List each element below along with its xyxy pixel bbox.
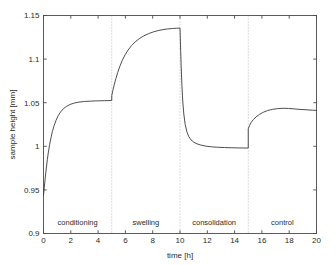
x-tick-label: 18 (285, 236, 294, 245)
y-tick-label: 0.95 (24, 186, 40, 195)
x-tick-label: 4 (96, 236, 101, 245)
phase-label-control: control (271, 218, 294, 227)
y-axis-title: sample height [mm] (8, 90, 17, 160)
x-tick-label: 20 (312, 236, 321, 245)
x-tick-label: 6 (123, 236, 128, 245)
phase-label-conditioning: conditioning (58, 218, 98, 227)
phase-label-swelling: swelling (133, 218, 160, 227)
chart-figure: 02468101214161820 0.90.9511.051.11.15 co… (0, 0, 336, 265)
x-tick-label: 16 (257, 236, 266, 245)
phase-label-consolidation: consolidation (192, 218, 236, 227)
y-tick-label: 1 (35, 142, 40, 151)
y-tick-label: 0.9 (28, 229, 40, 238)
x-tick-label: 12 (203, 236, 212, 245)
y-tick-label: 1.15 (24, 11, 40, 20)
x-tick-label: 14 (230, 236, 239, 245)
sample-height-line-chart: 02468101214161820 0.90.9511.051.11.15 co… (0, 0, 336, 265)
y-tick-label: 1.05 (24, 99, 40, 108)
x-tick-label: 8 (150, 236, 155, 245)
x-tick-label: 0 (41, 236, 46, 245)
x-tick-label: 2 (69, 236, 74, 245)
x-tick-label: 10 (176, 236, 185, 245)
x-axis-title: time [h] (167, 251, 193, 260)
y-tick-label: 1.1 (28, 55, 40, 64)
